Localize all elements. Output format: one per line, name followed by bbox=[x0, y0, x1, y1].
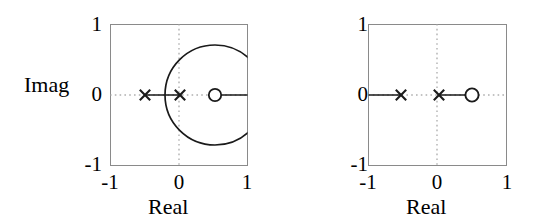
zero-markers-left bbox=[209, 89, 221, 101]
plot-canvas-left bbox=[0, 0, 269, 224]
zero-marker bbox=[209, 89, 221, 101]
zero-marker bbox=[465, 88, 478, 101]
zero-markers-right bbox=[465, 88, 478, 101]
plot-canvas-right bbox=[269, 0, 538, 224]
locus-curves-left bbox=[145, 45, 265, 145]
figure-root: Imag 1 0 -1 -1 0 1 Real bbox=[0, 0, 538, 224]
root-locus-plot-right: 1 0 -1 -1 0 1 Real bbox=[269, 0, 538, 224]
root-locus-plot-left: Imag 1 0 -1 -1 0 1 Real bbox=[0, 0, 269, 224]
